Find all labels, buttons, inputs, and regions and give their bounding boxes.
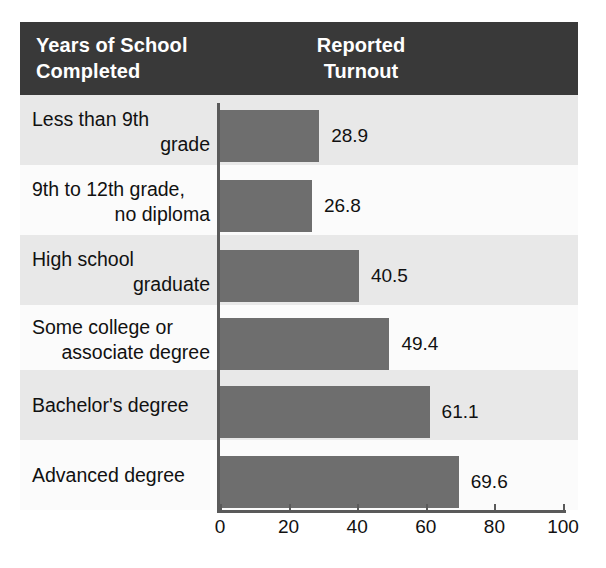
category-label-line1: 9th to 12th grade, <box>32 177 216 202</box>
x-axis <box>217 504 566 514</box>
category-label-line2: grade <box>32 132 216 157</box>
x-axis-tick <box>426 504 428 512</box>
plot-area: 28.9 26.8 40.5 49.4 61.1 69.6 <box>220 95 563 510</box>
category-label-line1: High school <box>32 247 216 272</box>
header-education-line1: Years of School <box>36 32 188 58</box>
category-label: Less than 9th grade <box>32 107 216 157</box>
category-label: High school graduate <box>32 247 216 297</box>
header-column-turnout: Reported Turnout <box>256 32 466 84</box>
bar-high-school-graduate <box>220 250 359 302</box>
x-axis-tick-label: 40 <box>347 516 368 538</box>
bar-some-college-associate <box>220 318 389 370</box>
bar-value-label: 28.9 <box>331 126 368 146</box>
header-turnout-line1: Reported <box>256 32 466 58</box>
category-label: 9th to 12th grade, no diploma <box>32 177 216 227</box>
x-axis-tick <box>563 504 565 512</box>
bar-value-label: 49.4 <box>401 334 438 354</box>
category-label-line1: Some college or <box>32 315 216 340</box>
category-label: Bachelor's degree <box>32 393 216 418</box>
bar-9th-to-12th-no-diploma <box>220 180 312 232</box>
x-axis-tick-label: 60 <box>415 516 436 538</box>
bar-less-than-9th-grade <box>220 110 319 162</box>
bar-value-label: 61.1 <box>442 402 479 422</box>
x-axis-tick-label: 20 <box>278 516 299 538</box>
header-column-education: Years of School Completed <box>36 32 188 84</box>
x-axis-line <box>217 510 566 513</box>
category-label-line2: no diploma <box>32 202 216 227</box>
turnout-by-education-figure: Years of School Completed Reported Turno… <box>0 0 606 568</box>
bar-bachelors-degree <box>220 386 430 438</box>
category-label-line1: Bachelor's degree <box>32 393 216 418</box>
x-axis-tick <box>357 504 359 512</box>
x-axis-tick <box>220 504 222 512</box>
category-label: Advanced degree <box>32 463 216 488</box>
bar-value-label: 69.6 <box>471 472 508 492</box>
category-label-column: Less than 9th grade 9th to 12th grade, n… <box>20 95 216 510</box>
x-axis-tick <box>494 504 496 512</box>
y-axis-line <box>217 103 220 510</box>
category-label-line1: Advanced degree <box>32 463 216 488</box>
x-axis-tick-labels: 020406080100 <box>0 516 606 544</box>
x-axis-tick-label: 80 <box>484 516 505 538</box>
x-axis-tick-label: 100 <box>547 516 579 538</box>
category-label-line2: graduate <box>32 272 216 297</box>
x-axis-tick-label: 0 <box>215 516 226 538</box>
category-label-line1: Less than 9th <box>32 107 216 132</box>
header-turnout-line2: Turnout <box>256 58 466 84</box>
x-axis-tick <box>289 504 291 512</box>
bar-advanced-degree <box>220 456 459 508</box>
table-header-band: Years of School Completed Reported Turno… <box>20 22 578 95</box>
bar-value-label: 26.8 <box>324 196 361 216</box>
bar-value-label: 40.5 <box>371 266 408 286</box>
header-education-line2: Completed <box>36 58 188 84</box>
category-label: Some college or associate degree <box>32 315 216 365</box>
category-label-line2: associate degree <box>32 340 216 365</box>
